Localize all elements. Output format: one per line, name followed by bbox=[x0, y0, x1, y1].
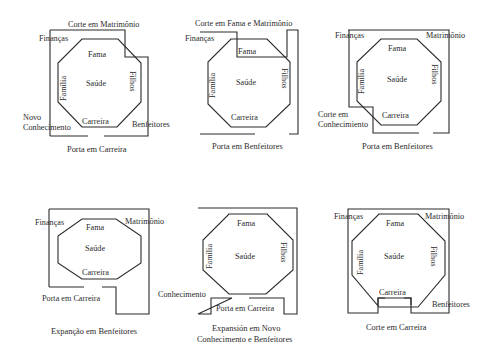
label-carreira: Carreira bbox=[82, 117, 109, 126]
label-conhecimento: Conhecimento bbox=[23, 123, 71, 132]
diagram-caption-line-1: Expansión em Novo bbox=[212, 324, 280, 333]
label-fama: Fama bbox=[386, 219, 405, 228]
label-benfeitores: Benfeitores bbox=[132, 120, 170, 129]
label-fama: Fama bbox=[88, 50, 107, 59]
label-saude: Saúde bbox=[384, 252, 404, 261]
bagua-diagram-2: Corte em Fama e Matrimônio Finanças Fama… bbox=[185, 19, 298, 151]
label-financas: Finanças bbox=[39, 34, 68, 43]
label-benfeitores: Benfeitores bbox=[432, 300, 470, 309]
label-filhos: Filhos bbox=[280, 68, 289, 88]
label-carreira: Carreira bbox=[231, 113, 258, 122]
label-filhos: Filhos bbox=[430, 64, 439, 84]
label-filhos: Filhos bbox=[429, 246, 438, 266]
diagram-caption: Expanção em Benfeitores bbox=[51, 327, 137, 336]
diagram-caption-line-2: Conhecimento e Benfeitores bbox=[197, 335, 292, 344]
bagua-diagram-4: Finanças Matrimônio Fama Saúde Carreira … bbox=[35, 209, 164, 336]
bagua-diagram-1: Corte em Matrimônio Finanças Fama Saúde … bbox=[23, 20, 170, 154]
label-familia: Família bbox=[356, 250, 365, 275]
label-top: Corte em Matrimônio bbox=[68, 20, 139, 29]
label-financas: Finanças bbox=[334, 212, 363, 221]
diagram-caption: Porta em Benfeitores bbox=[362, 142, 433, 151]
label-financas: Finanças bbox=[335, 31, 364, 40]
label-familia: Família bbox=[208, 73, 217, 98]
bagua-diagram-3: Finanças Matrimônio Fama Saúde Família F… bbox=[318, 30, 465, 151]
carreira-cut-notch bbox=[378, 298, 411, 305]
label-financas: Finanças bbox=[185, 34, 214, 43]
label-novo: Novo bbox=[23, 113, 41, 122]
label-saude: Saúde bbox=[235, 252, 255, 261]
label-familia: Família bbox=[357, 69, 366, 94]
label-filhos: Filhos bbox=[279, 242, 288, 262]
diagram-caption: Corte em Carreira bbox=[366, 323, 427, 332]
label-fama: Fama bbox=[86, 223, 105, 232]
label-top: Corte em Fama e Matrimônio bbox=[195, 19, 292, 28]
label-matrimonio: Matrimônio bbox=[426, 31, 465, 40]
label-carreira: Carreira bbox=[379, 288, 406, 297]
bagua-diagram-6: Finanças Matrimônio Fama Saúde Família F… bbox=[334, 209, 470, 332]
label-filhos: Filhos bbox=[128, 71, 137, 91]
label-fama: Fama bbox=[237, 219, 256, 228]
label-fama: Fama bbox=[388, 44, 407, 53]
diagram-caption: Porta em Carreira bbox=[67, 145, 127, 154]
label-saude: Saúde bbox=[86, 79, 106, 88]
label-porta-em-carreira: Porta em Carreira bbox=[216, 304, 275, 313]
label-corte-em: Corte em bbox=[318, 110, 349, 119]
bagua-diagram-5: Fama Saúde Família Filhos Conhecimento P… bbox=[158, 208, 297, 344]
label-carreira: Carreira bbox=[382, 111, 409, 120]
diagram-caption: Porta em Benfeitores bbox=[212, 142, 283, 151]
label-conhecimiento: Conhecimiento bbox=[318, 120, 368, 129]
label-familia: Família bbox=[59, 76, 68, 101]
label-conhecimento: Conhecimento bbox=[158, 290, 206, 299]
label-porta-em-carreira: Porta em Carreira bbox=[42, 294, 101, 303]
label-saude: Saúde bbox=[236, 78, 256, 87]
label-fama: Fama bbox=[238, 47, 257, 56]
label-matrimonio: Matrimônio bbox=[425, 212, 464, 221]
label-saude: Saúde bbox=[85, 244, 105, 253]
label-carreira: Carreira bbox=[82, 268, 109, 277]
label-matrimonio: Matrimônio bbox=[125, 217, 164, 226]
label-familia: Família bbox=[205, 244, 214, 269]
label-saude: Saúde bbox=[387, 75, 407, 84]
label-financas: Finanças bbox=[35, 218, 64, 227]
